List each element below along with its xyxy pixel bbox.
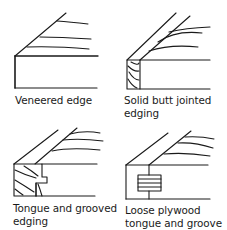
- label-line: Tongue and grooved: [13, 202, 117, 215]
- loose-plywood-drawing: [126, 131, 214, 199]
- veneered-edge-label: Veneered edge: [15, 94, 92, 107]
- solid-butt-jointed-drawing: [127, 13, 210, 89]
- label-line: edging: [124, 107, 211, 120]
- label-line: Loose plywood: [125, 204, 222, 217]
- veneered-edge-drawing: [15, 13, 98, 88]
- label-line: edging: [13, 215, 117, 228]
- label-line: Solid butt jointed: [124, 94, 211, 107]
- loose-plywood-label: Loose plywood tongue and groove: [125, 204, 222, 229]
- solid-butt-jointed-label: Solid butt jointed edging: [124, 94, 211, 119]
- tongue-grooved-drawing: [14, 128, 103, 196]
- label-line: tongue and groove: [125, 217, 222, 230]
- tongue-grooved-label: Tongue and grooved edging: [13, 202, 117, 227]
- label-line: Veneered edge: [15, 94, 92, 107]
